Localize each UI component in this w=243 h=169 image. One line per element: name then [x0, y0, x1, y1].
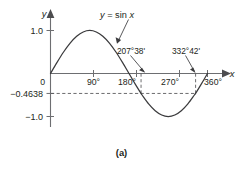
annotation-solution-1: 207°38' [117, 46, 146, 56]
y-tick-label-neg1: −1.0 [25, 112, 43, 122]
curve-label-leader-arrowhead [116, 37, 122, 44]
sine-graph-figure: y x 1.0 −0.4638 −1.0 0 90° 180° 270° 360… [0, 0, 243, 169]
curve-equation-rhs: x [128, 10, 134, 20]
x-tick-label-360: 360° [204, 77, 222, 87]
figure-caption: (a) [116, 147, 127, 158]
solution-1-leader-arrowhead [139, 68, 145, 73]
y-tick-label-1: 1.0 [30, 26, 43, 36]
x-tick-label-90: 90° [87, 77, 100, 87]
x-tick-label-0: 0 [40, 77, 45, 87]
x-tick-label-270: 270° [161, 77, 179, 87]
y-tick-label-neg04638: −0.4638 [10, 89, 43, 99]
x-axis-label: x [229, 68, 236, 79]
y-axis-label: y [41, 8, 48, 19]
annotation-solution-2: 332°42' [172, 46, 201, 56]
solution-2-leader-arrowhead [190, 68, 196, 73]
sine-plot-svg: y x 1.0 −0.4638 −1.0 0 90° 180° 270° 360… [0, 0, 243, 169]
y-axis-arrowhead [47, 9, 55, 18]
curve-equation-label: y = sin x [99, 10, 134, 20]
axes-group [47, 9, 232, 127]
x-tick-label-180: 180° [118, 77, 136, 87]
curve-equation-operator: = sin [105, 10, 130, 20]
